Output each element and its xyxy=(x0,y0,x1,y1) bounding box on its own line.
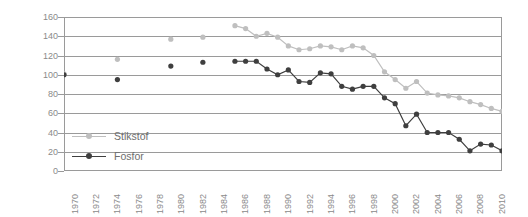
data-point xyxy=(254,34,259,39)
x-axis-tick-label: 2004 xyxy=(432,174,444,214)
data-point xyxy=(328,71,333,76)
data-point xyxy=(286,43,291,48)
y-axis-tick-label: 160 xyxy=(30,12,58,22)
data-point xyxy=(243,59,248,64)
data-point xyxy=(115,77,120,82)
x-axis-tick-label: 1982 xyxy=(197,174,209,214)
x-axis-tick-label: 1990 xyxy=(282,174,294,214)
series-line xyxy=(235,26,502,112)
legend-swatch xyxy=(72,150,106,162)
x-axis-tick-label: 1984 xyxy=(218,174,230,214)
data-point xyxy=(403,86,408,91)
x-axis-tick-label: 1998 xyxy=(368,174,380,214)
data-point xyxy=(478,102,483,107)
y-axis-tick-label: 0 xyxy=(30,166,58,176)
data-point xyxy=(499,109,502,114)
x-axis-tick-label: 2006 xyxy=(453,174,465,214)
data-point xyxy=(243,26,248,31)
x-axis-tick-label: 1992 xyxy=(304,174,316,214)
data-point xyxy=(382,95,387,100)
data-point xyxy=(307,80,312,85)
data-point xyxy=(115,57,120,62)
y-axis-tickmark xyxy=(58,17,64,18)
data-point xyxy=(371,84,376,89)
data-point xyxy=(489,106,494,111)
data-point xyxy=(264,31,269,36)
x-axis-tick-label: 1974 xyxy=(111,174,123,214)
x-axis-tick-label: 1970 xyxy=(69,174,81,214)
data-point xyxy=(254,59,259,64)
x-axis-tick-label: 2010 xyxy=(496,174,508,214)
data-point xyxy=(457,137,462,142)
data-point xyxy=(296,79,301,84)
y-axis-tick-label: 140 xyxy=(30,31,58,41)
data-point xyxy=(264,66,269,71)
data-point xyxy=(200,60,205,65)
y-axis-tick-label: 80 xyxy=(30,89,58,99)
data-point xyxy=(414,112,419,117)
y-axis-tickmark xyxy=(58,75,64,76)
data-point xyxy=(467,148,472,153)
x-axis-tick-label: 1986 xyxy=(239,174,251,214)
x-axis-tick-label: 1978 xyxy=(154,174,166,214)
y-axis-tick-label: 40 xyxy=(30,128,58,138)
data-point xyxy=(350,87,355,92)
legend-label: Stikstof xyxy=(114,130,148,142)
data-point xyxy=(446,93,451,98)
x-axis-tick-label: 2008 xyxy=(474,174,486,214)
data-point xyxy=(318,70,323,75)
data-point xyxy=(382,69,387,74)
x-axis-tick-label: 1976 xyxy=(133,174,145,214)
data-point xyxy=(296,47,301,52)
data-point xyxy=(275,35,280,40)
legend-item-stikstof[interactable]: Stikstof xyxy=(72,127,148,145)
y-axis-tick-label-group: 020406080100120140160 xyxy=(30,0,58,217)
data-point xyxy=(318,43,323,48)
data-point xyxy=(393,101,398,106)
data-point xyxy=(371,53,376,58)
data-point xyxy=(425,90,430,95)
data-point xyxy=(232,59,237,64)
data-point xyxy=(393,77,398,82)
data-point xyxy=(275,72,280,77)
legend-swatch xyxy=(72,130,106,142)
legend-label: Fosfor xyxy=(114,150,144,162)
data-point xyxy=(446,130,451,135)
data-point xyxy=(168,63,173,68)
data-point xyxy=(350,43,355,48)
data-point xyxy=(200,35,205,40)
data-point xyxy=(489,142,494,147)
data-point xyxy=(414,79,419,84)
data-point xyxy=(457,95,462,100)
chart-legend: StikstofFosfor xyxy=(72,127,202,167)
data-point xyxy=(361,84,366,89)
data-point xyxy=(435,130,440,135)
y-axis-tickmark xyxy=(58,36,64,37)
x-axis-tick-label: 1988 xyxy=(261,174,273,214)
data-point xyxy=(403,123,408,128)
y-axis-tickmark xyxy=(58,94,64,95)
x-axis-tick-label: 2002 xyxy=(410,174,422,214)
y-axis-tickmark xyxy=(58,56,64,57)
data-point xyxy=(435,92,440,97)
legend-item-fosfor[interactable]: Fosfor xyxy=(72,147,144,165)
series-stikstof xyxy=(64,23,502,114)
data-point xyxy=(328,44,333,49)
data-point xyxy=(168,37,173,42)
x-axis-tick-label-group: 1970197219741976197819801982198419861988… xyxy=(64,174,502,217)
x-axis-tick-label: 1972 xyxy=(90,174,102,214)
data-point xyxy=(361,45,366,50)
y-axis-tick-label: 60 xyxy=(30,108,58,118)
x-axis-tick-label: 1994 xyxy=(325,174,337,214)
legend-dot-icon xyxy=(86,133,92,139)
y-axis-tickmark xyxy=(58,113,64,114)
data-point xyxy=(232,23,237,28)
data-point xyxy=(467,99,472,104)
data-point xyxy=(286,67,291,72)
data-point xyxy=(307,46,312,51)
y-axis-tick-label: 120 xyxy=(30,51,58,61)
data-point xyxy=(339,47,344,52)
y-axis-tick-label: 20 xyxy=(30,147,58,157)
legend-dot-icon xyxy=(86,153,92,159)
x-axis-tick-label: 1980 xyxy=(175,174,187,214)
